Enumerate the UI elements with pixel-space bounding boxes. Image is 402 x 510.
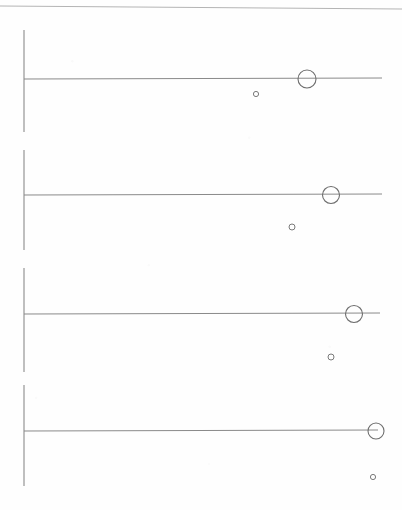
panel-2-small-marker <box>289 224 295 230</box>
panel-3 <box>24 268 380 372</box>
panel-1 <box>24 30 382 132</box>
panel-3-large-marker <box>346 306 363 323</box>
page-top-rule <box>0 6 402 9</box>
panel-4 <box>24 385 384 486</box>
panel-3-baseline <box>24 313 380 314</box>
figure-canvas <box>0 0 402 510</box>
scanned-page <box>0 0 402 510</box>
panel-2-large-marker <box>323 187 340 204</box>
panel-1-baseline <box>24 78 382 79</box>
panel-4-large-marker <box>368 423 384 439</box>
panel-4-baseline <box>24 430 378 431</box>
panel-2-baseline <box>24 194 382 195</box>
panel-4-small-marker <box>370 474 375 479</box>
panel-1-small-marker <box>253 91 258 96</box>
panel-1-large-marker <box>298 70 316 88</box>
panel-3-small-marker <box>328 354 334 360</box>
panel-2 <box>24 150 382 250</box>
